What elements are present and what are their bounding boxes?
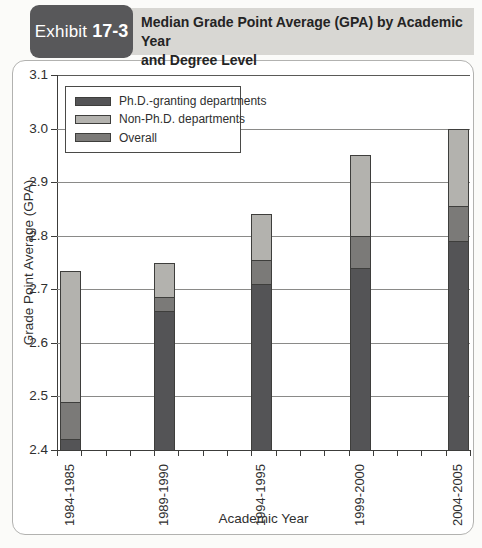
- legend-label: Non-Ph.D. departments: [119, 112, 245, 126]
- bar-1989-1990: [154, 263, 175, 452]
- bar-segment-phd: [252, 284, 271, 450]
- legend-swatch-icon: [75, 133, 111, 142]
- x-axis-tick: [178, 451, 179, 456]
- legend-swatch-icon: [75, 115, 111, 124]
- x-axis-tick: [324, 451, 325, 456]
- page: Exhibit 17-3 Median Grade Point Average …: [0, 0, 482, 548]
- x-axis-tick: [446, 451, 447, 456]
- y-axis-tick-label: 3.0: [8, 121, 48, 137]
- legend-swatch-icon: [75, 97, 111, 106]
- legend: Ph.D.-granting departmentsNon-Ph.D. depa…: [65, 86, 241, 153]
- legend-label: Ph.D.-granting departments: [119, 94, 266, 108]
- legend-row: Non-Ph.D. departments: [75, 112, 231, 126]
- y-axis-tick: [51, 289, 57, 290]
- y-axis-tick-label: 2.7: [8, 281, 48, 297]
- y-axis-tick: [51, 182, 57, 183]
- x-axis-tick: [276, 451, 277, 456]
- y-axis-tick-label: 2.5: [8, 388, 48, 404]
- x-axis-category-label: 1994-1995: [253, 455, 269, 535]
- x-axis-tick: [227, 451, 228, 456]
- gridline: [57, 182, 470, 183]
- y-axis-tick-label: 3.1: [8, 67, 48, 83]
- x-axis-category-label: 1984-1985: [62, 455, 78, 535]
- y-axis-tick-label: 2.6: [8, 335, 48, 351]
- legend-row: Ph.D.-granting departments: [75, 94, 231, 108]
- y-axis-tick: [51, 75, 57, 76]
- x-axis-category-label: 1989-1990: [156, 455, 172, 535]
- plot-layer: Grade Point Average (GPA) Academic Year …: [0, 0, 482, 548]
- x-axis-tick: [300, 451, 301, 456]
- legend-label: Overall: [119, 131, 157, 145]
- bar-segment-phd: [351, 268, 370, 450]
- x-axis-tick: [106, 451, 107, 456]
- x-axis-tick: [203, 451, 204, 456]
- bar-1994-1995: [251, 214, 272, 451]
- y-axis-title: Grade Point Average (GPA): [21, 173, 38, 353]
- y-axis-tick: [51, 343, 57, 344]
- x-axis-tick: [421, 451, 422, 456]
- x-axis-tick: [57, 451, 58, 456]
- x-axis-category-label: 2004-2005: [450, 455, 466, 535]
- bar-2004-2005: [448, 129, 469, 451]
- y-axis-tick-label: 2.4: [8, 442, 48, 458]
- x-axis-category-label: 1999-2000: [352, 455, 368, 535]
- y-axis-line: [57, 75, 58, 451]
- x-axis-tick: [397, 451, 398, 456]
- y-axis-tick: [51, 129, 57, 130]
- bar-1999-2000: [350, 155, 371, 451]
- y-axis-tick-label: 2.8: [8, 228, 48, 244]
- bar-segment-phd: [61, 439, 80, 450]
- bar-segment-phd: [449, 241, 468, 450]
- y-axis-tick: [51, 236, 57, 237]
- bar-segment-phd: [155, 311, 174, 450]
- legend-row: Overall: [75, 131, 231, 145]
- x-axis-tick: [470, 451, 471, 456]
- x-axis-tick: [349, 451, 350, 456]
- x-axis-tick: [81, 451, 82, 456]
- plot-top-border: [57, 75, 470, 76]
- x-axis-tick: [373, 451, 374, 456]
- y-axis-tick-label: 2.9: [8, 174, 48, 190]
- y-axis-tick: [51, 396, 57, 397]
- bar-1984-1985: [60, 271, 81, 451]
- x-axis-tick: [130, 451, 131, 456]
